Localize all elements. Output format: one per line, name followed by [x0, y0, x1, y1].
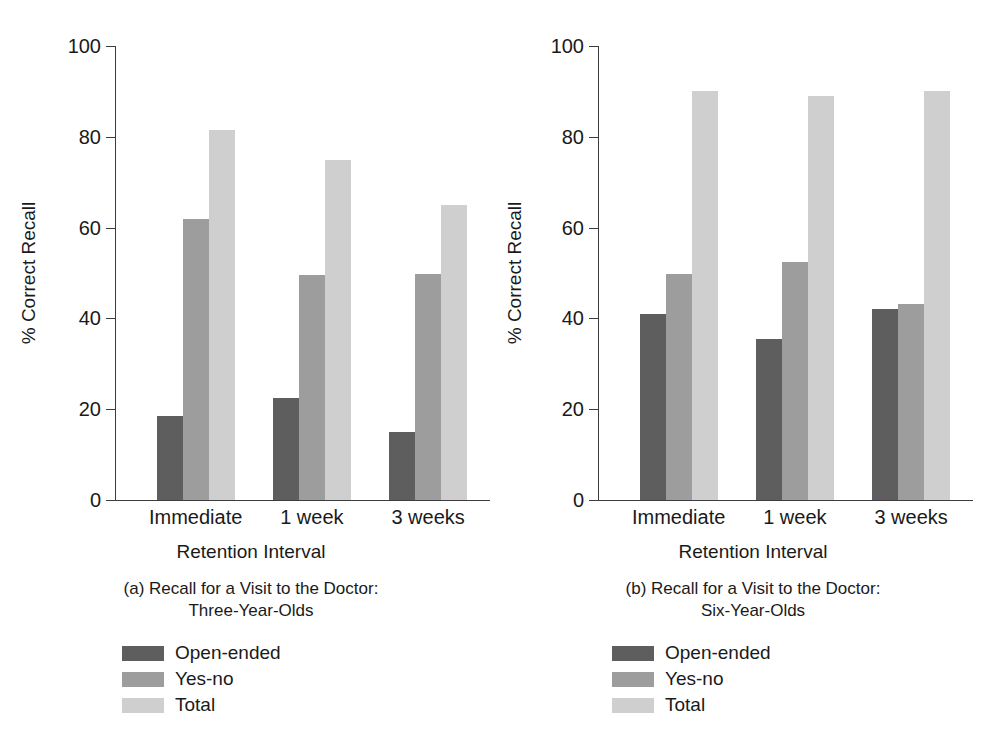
- legend-a: Open-endedYes-noTotal: [122, 640, 281, 718]
- legend-swatch-icon: [122, 672, 164, 687]
- panel-caption-a: (a) Recall for a Visit to the Doctor: Th…: [0, 578, 502, 622]
- legend-item: Yes-no: [122, 666, 281, 692]
- x-category-label: Immediate: [149, 506, 242, 529]
- bar: [325, 160, 351, 501]
- legend-swatch-icon: [122, 698, 164, 713]
- y-tick-60: [589, 228, 598, 229]
- bar-group: [157, 46, 235, 500]
- x-axis-line-b: [598, 500, 973, 501]
- legend-b: Open-endedYes-noTotal: [612, 640, 771, 718]
- y-axis-label-b: % Correct Recall: [502, 46, 528, 500]
- y-tick-40: [106, 318, 115, 319]
- bar: [441, 205, 467, 500]
- panel-caption-a-line1: (a) Recall for a Visit to the Doctor:: [0, 578, 502, 600]
- legend-item: Open-ended: [612, 640, 771, 666]
- panel-caption-b: (b) Recall for a Visit to the Doctor: Si…: [502, 578, 1004, 622]
- y-tick-100: [589, 46, 598, 47]
- legend-swatch-icon: [122, 646, 164, 661]
- y-tick-label-20: 20: [562, 398, 584, 421]
- bar: [157, 416, 183, 500]
- legend-label: Yes-no: [175, 668, 233, 690]
- y-tick-label-100: 100: [68, 35, 101, 58]
- legend-swatch-icon: [612, 672, 654, 687]
- figure-two-panel-bar-charts: % Correct Recall 020406080100 Immediate1…: [0, 0, 1004, 747]
- plot-area-b: 020406080100 Immediate1 week3 weeks: [598, 46, 973, 500]
- bar: [415, 274, 441, 500]
- bar: [640, 314, 666, 500]
- y-tick-label-40: 40: [562, 307, 584, 330]
- bar: [389, 432, 415, 500]
- y-tick-80: [106, 137, 115, 138]
- legend-label: Open-ended: [665, 642, 771, 664]
- x-category-label: 1 week: [280, 506, 343, 529]
- x-category-label: 3 weeks: [391, 506, 464, 529]
- bar-group: [640, 46, 718, 500]
- x-category-label: 1 week: [763, 506, 826, 529]
- y-axis-label-a: % Correct Recall: [16, 46, 42, 500]
- x-axis-category-labels-b: Immediate1 week3 weeks: [598, 506, 973, 536]
- bar: [872, 309, 898, 500]
- legend-label: Open-ended: [175, 642, 281, 664]
- y-tick-label-100: 100: [551, 35, 584, 58]
- panel-caption-b-line2: Six-Year-Olds: [502, 600, 1004, 622]
- y-tick-label-60: 60: [562, 216, 584, 239]
- plot-area-a: 020406080100 Immediate1 week3 weeks: [115, 46, 490, 500]
- x-axis-category-labels-a: Immediate1 week3 weeks: [115, 506, 490, 536]
- legend-item: Yes-no: [612, 666, 771, 692]
- legend-swatch-icon: [612, 646, 654, 661]
- x-axis-label-a: Retention Interval: [0, 541, 502, 563]
- y-tick-label-20: 20: [79, 398, 101, 421]
- x-axis-label-b: Retention Interval: [502, 541, 1004, 563]
- legend-item: Open-ended: [122, 640, 281, 666]
- legend-label: Total: [175, 694, 215, 716]
- bar-groups-a: [115, 46, 490, 500]
- y-tick-20: [589, 409, 598, 410]
- x-category-label: Immediate: [632, 506, 725, 529]
- x-axis-line-a: [115, 500, 490, 501]
- y-tick-label-80: 80: [79, 125, 101, 148]
- y-tick-100: [106, 46, 115, 47]
- bar-groups-b: [598, 46, 973, 500]
- bar: [299, 275, 325, 500]
- bar-group: [273, 46, 351, 500]
- y-tick-0: [589, 500, 598, 501]
- bar: [756, 339, 782, 500]
- bar: [808, 96, 834, 500]
- bar-group: [389, 46, 467, 500]
- y-tick-label-60: 60: [79, 216, 101, 239]
- y-tick-label-0: 0: [90, 489, 101, 512]
- y-tick-60: [106, 228, 115, 229]
- y-tick-label-80: 80: [562, 125, 584, 148]
- legend-item: Total: [122, 692, 281, 718]
- bar: [209, 130, 235, 500]
- legend-label: Yes-no: [665, 668, 723, 690]
- x-category-label: 3 weeks: [874, 506, 947, 529]
- bar: [782, 262, 808, 500]
- legend-swatch-icon: [612, 698, 654, 713]
- legend-item: Total: [612, 692, 771, 718]
- y-tick-label-0: 0: [573, 489, 584, 512]
- bar: [666, 274, 692, 500]
- bar: [898, 304, 924, 500]
- bar: [273, 398, 299, 500]
- bar: [692, 91, 718, 500]
- y-tick-80: [589, 137, 598, 138]
- y-tick-label-40: 40: [79, 307, 101, 330]
- chart-panel-a: % Correct Recall 020406080100 Immediate1…: [0, 0, 502, 747]
- bar-group: [872, 46, 950, 500]
- legend-label: Total: [665, 694, 705, 716]
- bar-group: [756, 46, 834, 500]
- y-tick-20: [106, 409, 115, 410]
- bar: [924, 91, 950, 500]
- y-tick-0: [106, 500, 115, 501]
- y-tick-40: [589, 318, 598, 319]
- panel-caption-a-line2: Three-Year-Olds: [0, 600, 502, 622]
- chart-panel-b: % Correct Recall 020406080100 Immediate1…: [502, 0, 1004, 747]
- bar: [183, 219, 209, 500]
- panel-caption-b-line1: (b) Recall for a Visit to the Doctor:: [502, 578, 1004, 600]
